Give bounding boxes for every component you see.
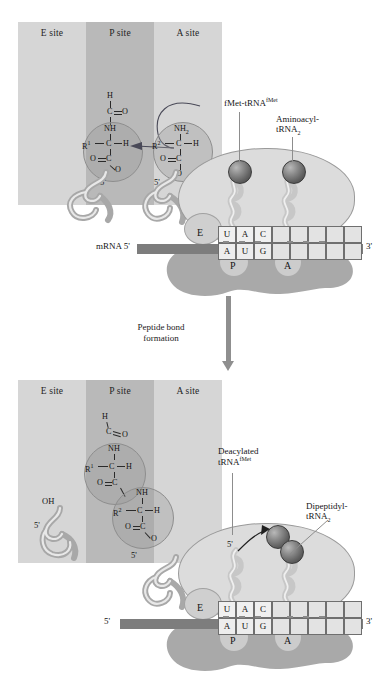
dipeptidyl-trna-label-bottom: Dipeptidyl- tRNA2 <box>306 501 348 524</box>
r2-superscript: 2 <box>157 140 160 146</box>
ribosome-e-site-label-bottom: E <box>197 602 203 613</box>
deacylated-label-trna: tRNA <box>218 457 240 467</box>
p-site-label-top: P site <box>86 28 154 38</box>
codon-cell: A <box>218 243 236 260</box>
codon-cell: A <box>218 618 236 635</box>
alpha-hydrogen1-atom-bottom: H <box>126 463 132 471</box>
alpha-carbon1-atom-bottom: C <box>109 463 114 471</box>
bond-ca-h-a <box>184 143 192 144</box>
alpha-hydrogen-atom-a: H <box>193 140 199 148</box>
amine-letters: NH <box>174 124 186 133</box>
dipeptidyl-label-sub: 2 <box>328 517 331 523</box>
p-site-label-bottom: P site <box>86 386 154 396</box>
ribosome-a-site-label-top: A <box>284 260 291 271</box>
amide1-atom-bottom: NH <box>108 445 120 453</box>
bond-c-o-bottom-b <box>113 434 121 437</box>
codon-cell-empty <box>344 618 362 635</box>
codon-cell-empty <box>308 618 326 635</box>
deacylated-label-leader-bottom <box>232 473 233 535</box>
bond-n-ca-bottom2 <box>142 498 143 504</box>
dipeptidyl-label-leader-bottom <box>288 520 330 556</box>
codon-cell-empty <box>272 243 290 260</box>
ester-carbonyl-c-atom-a: C <box>176 155 181 163</box>
panel-bottom-post-reaction: E site P site A site OH 5' H C <box>0 375 381 679</box>
panel-top-pre-reaction: E site P site A site H C O NH R1 C H O C… <box>0 0 381 300</box>
dipeptide-five-prime-label: 5' <box>131 551 137 560</box>
r2-sup-bottom: 2 <box>118 507 121 513</box>
codon-cell: U <box>236 618 254 635</box>
formyl-o-atom-bottom: O <box>122 431 128 439</box>
r1-superscript: 1 <box>87 140 90 146</box>
formyl-h-atom: H <box>107 92 113 100</box>
codon-cell-empty <box>344 243 362 260</box>
codon-cell-empty <box>272 618 290 635</box>
bond-o-c1-bottom-a <box>105 482 112 483</box>
bond-r2-ca <box>165 143 174 144</box>
peptide-bond-formation-label: Peptide bond formation <box>106 322 216 345</box>
aminoacyl-label-trna: tRNA <box>276 124 298 134</box>
p-site-trna-ribbon-top <box>60 172 140 228</box>
process-label-line2: formation <box>106 333 216 344</box>
deacylated-label-sup: fMet <box>240 456 252 462</box>
fmet-label-leader-top <box>239 112 240 162</box>
a-site-label-top: A site <box>154 28 222 38</box>
anticodon-cell-empty <box>344 601 362 618</box>
codon-cell: G <box>254 243 272 260</box>
r1-sup-bottom: 1 <box>90 463 93 469</box>
alpha-carbon2-atom-bottom: C <box>137 507 142 515</box>
codon-cell-empty <box>290 618 308 635</box>
ester-o-down2-atom-bottom: O <box>151 535 157 543</box>
mrna-3prime-label-bottom: 3' <box>366 616 372 626</box>
formyl-c-atom-bottom: C <box>106 428 111 436</box>
trna-five-prime-left-bottom: 5' <box>227 540 233 550</box>
formyl-h-atom-bottom: H <box>102 413 108 421</box>
bond-o-c-ester-b2 <box>168 161 176 162</box>
e-site-label-bottom: E site <box>18 386 86 396</box>
r1-group-atom: R1 <box>82 140 90 151</box>
amine-subscript: 2 <box>186 129 189 135</box>
deacylated-label-line2: tRNAfMet <box>218 456 258 467</box>
peptide-transfer-arrow-bottom <box>236 525 280 557</box>
bond-r1-ca-bottom <box>98 466 108 467</box>
codon-cell-empty <box>326 243 344 260</box>
alpha-carbon-atom-a: C <box>176 140 181 148</box>
bond-o-c-ester-a2 <box>168 158 176 159</box>
process-arrow-shaft <box>226 296 231 362</box>
amide2-atom-bottom: NH <box>136 489 148 497</box>
aminoacyl-amino-acid-sphere-top <box>282 160 306 184</box>
deacylated-label-line1: Deacylated <box>218 446 258 456</box>
deacylated-trna-in-ribosome-bottom <box>218 550 252 605</box>
bond-n-ca-bottom1 <box>114 454 115 460</box>
bond-o-c1-bottom-b <box>105 485 112 486</box>
fmet-trna-label-top: fMet-tRNAfMet <box>224 97 278 108</box>
dipeptidyl-label-line1: Dipeptidyl- <box>306 501 348 511</box>
aminoacyl-label-line2: tRNA2 <box>276 124 319 137</box>
ester-c2-atom-bottom: C <box>140 523 145 531</box>
bond-o-c-ester-b <box>98 161 106 162</box>
a-site-label-bottom: A site <box>154 386 222 396</box>
e-site-label-top: E site <box>18 28 86 38</box>
ribosome-a-site-label-bottom: A <box>284 635 291 646</box>
codon-cell-empty <box>308 243 326 260</box>
bond-o-c2-bottom-b <box>133 529 140 530</box>
r2-group-atom: R2 <box>152 140 160 151</box>
ribosome-e-site-label-top: E <box>197 227 203 238</box>
aminoacyl-label-leader-top <box>292 137 293 162</box>
codon-cell: U <box>236 243 254 260</box>
carbonyl-o1-atom-bottom: O <box>97 479 103 487</box>
process-label-line1: Peptide bond <box>106 322 216 333</box>
anticodon-cell-empty <box>344 226 362 243</box>
mrna-5prime-label-bottom: 5' <box>104 616 110 626</box>
alpha-hydrogen2-atom-bottom: H <box>154 507 160 515</box>
ester-o2-atom-bottom: O <box>125 523 131 531</box>
aminoacyl-label-line1: Aminoacyl- <box>276 114 319 124</box>
bond-o-c2-bottom-a <box>133 526 140 527</box>
carbonyl-c1-atom-bottom: C <box>112 479 117 487</box>
r1-group-atom-bottom: R1 <box>85 463 93 474</box>
mrna-3prime-label-top: 3' <box>366 241 372 251</box>
fmet-trna-label-main: fMet-tRNA <box>224 98 266 108</box>
amine-nh2-atom: NH2 <box>174 125 189 135</box>
process-arrow-head <box>222 361 234 371</box>
codon-row-top: A U G <box>218 243 362 260</box>
ribosome-p-site-label-bottom: P <box>230 635 236 646</box>
